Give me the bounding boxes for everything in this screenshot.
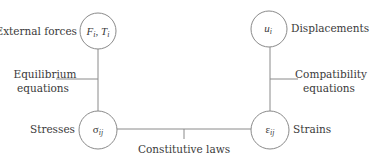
external-forces-symbol: Fi, Ti <box>86 25 110 39</box>
strains-label: Strains <box>293 123 331 135</box>
stresses-label: Stresses <box>30 123 75 135</box>
equilibrium-label-line2: equations <box>17 82 69 94</box>
compatibility-equations-label: Compatibility equations <box>295 68 367 94</box>
compatibility-label-line1: Compatibility <box>295 68 367 80</box>
diagram-canvas: Fi, Ti External forces ui Displacements … <box>0 0 376 161</box>
node-external-forces: Fi, Ti External forces <box>0 13 116 49</box>
equilibrium-equations-label: Equilibrium equations <box>13 68 76 94</box>
external-forces-label: External forces <box>0 25 77 37</box>
equilibrium-label-line1: Equilibrium <box>13 68 76 80</box>
constitutive-laws-label: Constitutive laws <box>138 143 230 155</box>
compatibility-label-line2: equations <box>303 82 355 94</box>
displacements-label: Displacements <box>291 22 369 34</box>
node-displacements: ui Displacements <box>251 11 369 47</box>
node-strains: εij Strains <box>251 111 331 149</box>
node-stresses: σij Stresses <box>30 111 117 149</box>
